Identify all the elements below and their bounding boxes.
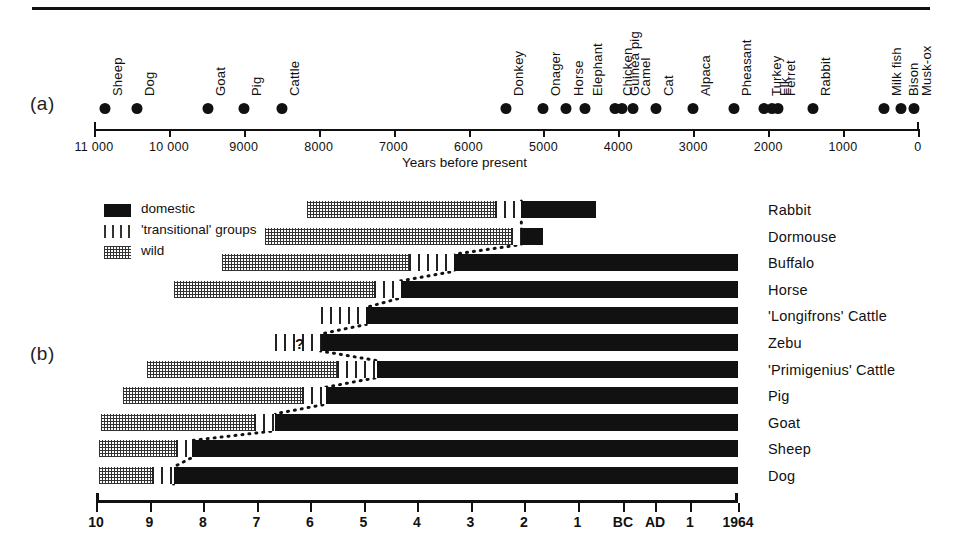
segment-domestic — [174, 467, 738, 484]
panel-b-tick — [524, 503, 526, 512]
timeline-row-label: Zebu — [768, 335, 802, 351]
panel-b-tick-label: 9 — [146, 514, 154, 530]
timeline-row[interactable] — [0, 281, 959, 298]
segment-transitional — [495, 201, 522, 218]
uncertainty-question-mark: ? — [361, 335, 370, 352]
panel-b-tick-label: AD — [645, 514, 665, 530]
timeline-row[interactable] — [0, 387, 959, 404]
panel-b-tick-label: 7 — [253, 514, 261, 530]
panel-b-tick — [257, 503, 259, 512]
timeline-row[interactable] — [0, 201, 959, 218]
timeline-row-label: Dog — [768, 468, 795, 484]
timeline-row[interactable] — [0, 440, 959, 457]
segment-wild — [222, 254, 409, 271]
panel-b-tick-label: 8 — [199, 514, 207, 530]
panel-b-tick-label: 2 — [520, 514, 528, 530]
timeline-row-label: Goat — [768, 415, 800, 431]
segment-transitional — [321, 307, 366, 324]
panel-b-tick — [738, 503, 740, 512]
segment-transitional — [302, 387, 326, 404]
segment-domestic — [377, 361, 738, 378]
segment-transitional — [511, 228, 522, 245]
segment-domestic — [326, 387, 738, 404]
segment-domestic — [275, 414, 738, 431]
segment-transitional — [176, 440, 192, 457]
panel-b-tick — [417, 503, 419, 512]
timeline-row[interactable] — [0, 334, 959, 351]
timeline-row[interactable] — [0, 467, 959, 484]
segment-transitional — [409, 254, 454, 271]
segment-domestic — [454, 254, 738, 271]
segment-transitional — [152, 467, 173, 484]
panel-b-tick — [203, 503, 205, 512]
timeline-row-label: Pig — [768, 388, 790, 404]
segment-domestic — [192, 440, 738, 457]
panel-b-tick — [364, 503, 366, 512]
panel-b-tick — [578, 503, 580, 512]
panel-b-tick — [96, 503, 98, 512]
timeline-row[interactable] — [0, 414, 959, 431]
panel-b-axis-cap-left — [96, 493, 99, 503]
panel-b-tick-label: 1 — [574, 514, 582, 530]
segment-domestic — [366, 307, 738, 324]
panel-b-tick — [310, 503, 312, 512]
panel-b: (b) domestic'transitional' groupswild Ra… — [0, 0, 959, 547]
segment-wild — [307, 201, 494, 218]
panel-b-tick-label: 10 — [88, 514, 104, 530]
panel-b-tick — [690, 503, 692, 512]
panel-b-tick-label: 1964 — [722, 514, 753, 530]
segment-transitional — [374, 281, 401, 298]
segment-domestic — [521, 201, 596, 218]
segment-wild — [147, 361, 337, 378]
timeline-row-label: Rabbit — [768, 202, 811, 218]
figure-root: (a) 11 00010 000900080007000600050004000… — [0, 0, 959, 547]
panel-b-tick — [623, 503, 625, 512]
timeline-row-label: Buffalo — [768, 255, 814, 271]
uncertainty-question-mark: ? — [295, 335, 304, 352]
segment-wild — [123, 387, 302, 404]
segment-wild — [101, 414, 253, 431]
segment-domestic — [321, 334, 738, 351]
panel-b-tick-label: 5 — [360, 514, 368, 530]
segment-wild — [265, 228, 511, 245]
segment-domestic — [521, 228, 542, 245]
panel-b-tick-label: 6 — [306, 514, 314, 530]
timeline-row-label: 'Longifrons' Cattle — [768, 308, 887, 324]
timeline-row[interactable] — [0, 254, 959, 271]
panel-b-tick-label: 3 — [467, 514, 475, 530]
domestication-staircase-connector — [0, 0, 959, 547]
segment-transitional — [254, 414, 275, 431]
segment-transitional — [337, 361, 377, 378]
timeline-row-label: Horse — [768, 282, 808, 298]
panel-b-tick — [150, 503, 152, 512]
timeline-row-label: Dormouse — [768, 229, 837, 245]
segment-domestic — [401, 281, 738, 298]
timeline-row-label: Sheep — [768, 441, 811, 457]
segment-wild — [99, 440, 177, 457]
panel-b-tick — [471, 503, 473, 512]
panel-b-tick — [655, 503, 657, 512]
panel-b-axis-cap-right — [735, 493, 738, 503]
segment-wild — [99, 467, 153, 484]
segment-wild — [174, 281, 375, 298]
panel-b-tick-label: 4 — [413, 514, 421, 530]
timeline-row-label: 'Primigenius' Cattle — [768, 362, 895, 378]
panel-b-tick-label: BC — [613, 514, 633, 530]
panel-b-tick-label: 1 — [686, 514, 694, 530]
